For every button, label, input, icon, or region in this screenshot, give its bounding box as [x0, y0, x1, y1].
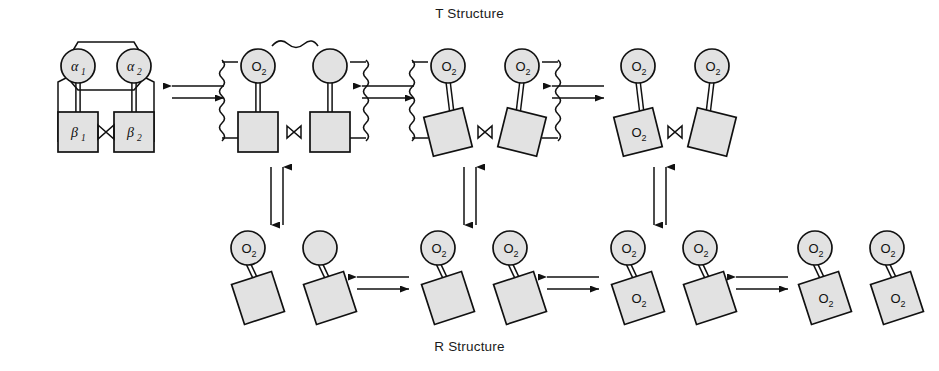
- equilibrium-arrow-top-1: [172, 86, 224, 98]
- alpha2-label-base: α: [127, 59, 135, 74]
- o2-label-subscript: 2: [901, 299, 906, 309]
- o2-label-base: O: [819, 291, 829, 306]
- rod-left-t2-b: [450, 81, 454, 114]
- alpha2-subunit-r1: [303, 231, 337, 265]
- equilibrium-arrow-bottom-2: [547, 277, 599, 289]
- o2-label-base: O: [252, 59, 262, 74]
- structure-t1: O2: [220, 41, 369, 152]
- o2-label-subscript: 2: [262, 67, 267, 77]
- beta1-subunit-t1: [238, 112, 278, 152]
- equilibrium-arrow-top-2: [362, 86, 414, 98]
- rod-left-t3: [636, 81, 644, 115]
- strain-wavy-right-t1: [364, 60, 369, 141]
- structure-r4: O2O2O2O2: [798, 231, 923, 324]
- beta1-subunit-t2: [424, 108, 472, 156]
- bowtie-connector-t1: [287, 126, 301, 138]
- beta1-subunit-r1: [232, 272, 285, 325]
- o2-label-subscript: 2: [642, 133, 647, 143]
- o2-label-subscript: 2: [642, 67, 647, 77]
- rod-right-t2-a: [516, 81, 520, 114]
- o2-label-subscript: 2: [252, 249, 257, 259]
- equilibrium-arrow-bottom-3: [736, 277, 788, 289]
- o2-label-subscript: 2: [642, 299, 647, 309]
- o2-label-subscript: 2: [891, 249, 896, 259]
- rod-right-t3: [706, 81, 714, 115]
- o2-label-base: O: [632, 59, 642, 74]
- o2-label-subscript: 2: [442, 249, 447, 259]
- beta1-subunit-r2: [422, 272, 475, 325]
- strain-wavy-left-t2: [410, 60, 415, 141]
- beta1-label-base: β: [70, 125, 78, 140]
- alpha1-label-subscript: 1: [81, 67, 86, 77]
- beta2-label-subscript: 2: [137, 133, 142, 143]
- alpha2-subunit-t1: [313, 49, 347, 83]
- equilibrium-arrow-vertical-3: [654, 167, 666, 225]
- beta2-subunit-t1: [310, 112, 350, 152]
- structure-r1: O2: [231, 231, 356, 324]
- structure-r2: O2O2: [421, 231, 546, 324]
- equilibrium-arrow-top-3: [552, 86, 604, 98]
- o2-label-base: O: [694, 241, 704, 256]
- o2-label-base: O: [891, 291, 901, 306]
- beta2-subunit-t3: [688, 108, 736, 156]
- rod-right-t3-b: [710, 81, 714, 114]
- beta1-subunit-t0: [58, 112, 98, 152]
- beta2-subunit-r3: [684, 272, 737, 325]
- rod-left-t2-a: [446, 81, 450, 114]
- strain-wavy-top-t1: [272, 41, 318, 48]
- o2-label-base: O: [504, 241, 514, 256]
- o2-label-base: O: [706, 59, 716, 74]
- structure-t2: O2O2: [410, 49, 561, 156]
- rod-right-t2-b: [520, 81, 524, 114]
- equilibrium-arrow-vertical-2: [464, 167, 476, 225]
- rod-left-t1: [256, 81, 260, 114]
- rod-left-t3-a: [636, 81, 640, 114]
- rod-right-t0: [132, 81, 136, 114]
- o2-label-base: O: [632, 291, 642, 306]
- o2-label-subscript: 2: [819, 249, 824, 259]
- rod-right-t2: [516, 81, 524, 115]
- o2-label-base: O: [432, 241, 442, 256]
- rod-right-t3-a: [706, 81, 710, 114]
- o2-label-base: O: [516, 59, 526, 74]
- o2-label-subscript: 2: [632, 249, 637, 259]
- o2-label-subscript: 2: [829, 299, 834, 309]
- equilibrium-arrow-bottom-1: [357, 277, 409, 289]
- hemoglobin-allostery-diagram: T Structure R Structure α1α2β1β2O2O2O2O2…: [0, 0, 939, 371]
- diagram-canvas: α1α2β1β2O2O2O2O2O2O2O2O2O2O2O2O2O2O2O2O2: [0, 0, 939, 371]
- beta2-subunit-t2: [498, 108, 546, 156]
- bowtie-connector-t0: [98, 125, 114, 139]
- o2-label-subscript: 2: [704, 249, 709, 259]
- beta2-label-base: β: [126, 125, 134, 140]
- o2-label-base: O: [622, 241, 632, 256]
- beta2-subunit-t0: [114, 112, 154, 152]
- rod-left-t2: [446, 81, 454, 115]
- o2-label-base: O: [632, 125, 642, 140]
- beta2-subunit-r1: [304, 272, 357, 325]
- o2-label-base: O: [442, 59, 452, 74]
- alpha1-label-base: α: [71, 59, 79, 74]
- bowtie-connector-t3: [668, 126, 682, 138]
- structure-t0: α1α2β1β2: [58, 42, 154, 152]
- strain-wavy-right-t2: [556, 60, 561, 141]
- strain-wavy-left-t1: [220, 60, 225, 141]
- rod-left-t0: [76, 81, 80, 114]
- o2-label-subscript: 2: [452, 67, 457, 77]
- rod-left-t3-b: [640, 81, 644, 114]
- o2-label-subscript: 2: [526, 67, 531, 77]
- alpha2-label-subscript: 2: [137, 67, 142, 77]
- bowtie-connector-t2: [478, 126, 492, 138]
- rod-right-t1: [328, 81, 332, 114]
- o2-label-subscript: 2: [514, 249, 519, 259]
- o2-label-subscript: 2: [716, 67, 721, 77]
- structure-t3: O2O2O2: [614, 49, 736, 156]
- beta2-subunit-r2: [494, 272, 547, 325]
- o2-label-base: O: [809, 241, 819, 256]
- o2-label-base: O: [242, 241, 252, 256]
- beta1-label-subscript: 1: [81, 133, 86, 143]
- o2-label-base: O: [881, 241, 891, 256]
- structure-r3: O2O2O2: [611, 231, 736, 324]
- equilibrium-arrow-vertical-1: [271, 167, 283, 225]
